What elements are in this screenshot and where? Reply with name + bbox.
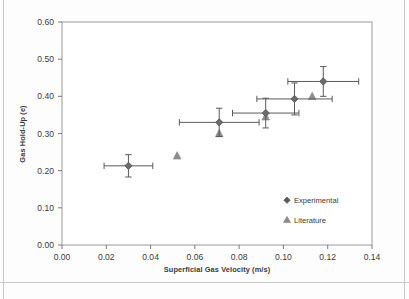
scatter-chart: 0.000.100.200.300.400.500.60 0.000.020.0… — [0, 0, 409, 299]
y-axis-title: Gas Hold-Up (e) — [18, 105, 27, 163]
legend-label-literature: Literature — [294, 216, 326, 225]
y-axis-tick-labels: 0.000.100.200.300.400.500.60 — [37, 17, 54, 250]
y-tick-label: 0.30 — [37, 129, 54, 139]
x-tick-label: 0.14 — [364, 252, 381, 262]
y-tick-label: 0.10 — [37, 203, 54, 213]
x-tick-label: 0.02 — [98, 252, 115, 262]
y-tick-label: 0.00 — [37, 240, 54, 250]
x-axis-ticks — [62, 245, 372, 249]
y-tick-label: 0.40 — [37, 91, 54, 101]
y-tick-label: 0.50 — [37, 54, 54, 64]
y-tick-label: 0.60 — [37, 17, 54, 27]
x-axis-title: Superficial Gas Velocity (m/s) — [164, 265, 271, 274]
x-tick-label: 0.12 — [319, 252, 336, 262]
chart-figure: 0.000.100.200.300.400.500.60 0.000.020.0… — [0, 0, 409, 299]
x-tick-label: 0.10 — [275, 252, 292, 262]
x-tick-label: 0.00 — [54, 252, 71, 262]
legend-label-experimental: Experimental — [294, 196, 339, 205]
y-axis-ticks — [58, 22, 62, 245]
x-tick-label: 0.08 — [231, 252, 248, 262]
x-axis-tick-labels: 0.000.020.040.060.080.100.120.14 — [54, 252, 381, 262]
x-tick-label: 0.04 — [142, 252, 159, 262]
y-tick-label: 0.20 — [37, 166, 54, 176]
x-tick-label: 0.06 — [186, 252, 203, 262]
